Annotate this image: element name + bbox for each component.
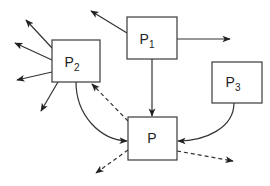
edge-p2-out-lower-left bbox=[17, 72, 52, 80]
edge-p2-out-down-left bbox=[41, 82, 58, 111]
edge-p3-to-p bbox=[178, 103, 234, 141]
edge-p-out-bottom-right-dashed bbox=[177, 151, 233, 161]
edge-p2-out-left bbox=[15, 43, 52, 60]
node-p-label: P bbox=[147, 130, 156, 146]
node-p1: P1 bbox=[127, 17, 177, 59]
node-p2: P2 bbox=[52, 40, 100, 82]
edge-p-to-p2-dashed bbox=[92, 84, 128, 121]
edge-p2-to-p bbox=[76, 82, 127, 141]
node-p1-label: P bbox=[140, 31, 149, 47]
node-p3: P3 bbox=[212, 62, 262, 103]
node-p: P bbox=[128, 117, 177, 160]
edge-p1-out-top-left bbox=[91, 11, 127, 33]
edge-p-out-bottom-left-dashed bbox=[96, 150, 128, 173]
node-p2-label: P bbox=[65, 54, 74, 70]
edge-p2-out-upper-left bbox=[26, 20, 52, 48]
node-p3-label: P bbox=[226, 74, 235, 90]
process-diagram: P1 P2 P3 P bbox=[0, 0, 270, 186]
